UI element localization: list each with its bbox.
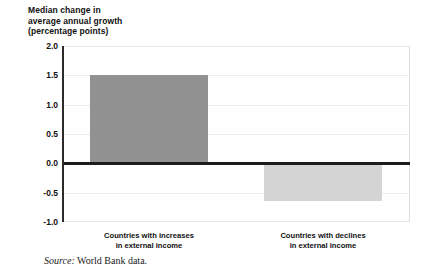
y-tick-label-0: 2.0 xyxy=(12,41,58,51)
category-1-line-1: Countries with declines xyxy=(243,231,403,241)
axis-title-line-2: average annual growth xyxy=(28,16,122,27)
y-axis-tick-labels: 2.01.51.00.50.0-0.5-1.0 xyxy=(10,46,58,222)
category-0-line-2: in external income xyxy=(69,241,229,251)
x-axis-category-label-0: Countries with increases in external inc… xyxy=(69,231,229,250)
bar-1 xyxy=(264,163,382,201)
source-label: Source: xyxy=(44,255,75,266)
plot-area xyxy=(62,46,410,222)
y-tick-label-5: -0.5 xyxy=(12,188,58,198)
category-1-line-2: in external income xyxy=(243,241,403,251)
source-note: Source: World Bank data. xyxy=(44,255,147,266)
axis-title-line-1: Median change in xyxy=(28,5,122,16)
chart-figure: Median change in average annual growth (… xyxy=(0,0,429,272)
zero-baseline xyxy=(62,162,410,164)
y-tick-label-6: -1.0 xyxy=(12,217,58,227)
category-0-line-1: Countries with increases xyxy=(69,231,229,241)
axis-title-line-3: (percentage points) xyxy=(28,26,122,37)
y-tick-label-4: 0.0 xyxy=(12,158,58,168)
x-axis-category-label-1: Countries with declines in external inco… xyxy=(243,231,403,250)
bar-0 xyxy=(90,75,208,163)
source-text: World Bank data. xyxy=(77,255,147,266)
y-tick-label-1: 1.5 xyxy=(12,70,58,80)
chart-axis-title: Median change in average annual growth (… xyxy=(28,5,122,37)
y-tick-label-2: 1.0 xyxy=(12,100,58,110)
y-axis-line xyxy=(62,46,64,222)
y-tick-label-3: 0.5 xyxy=(12,129,58,139)
